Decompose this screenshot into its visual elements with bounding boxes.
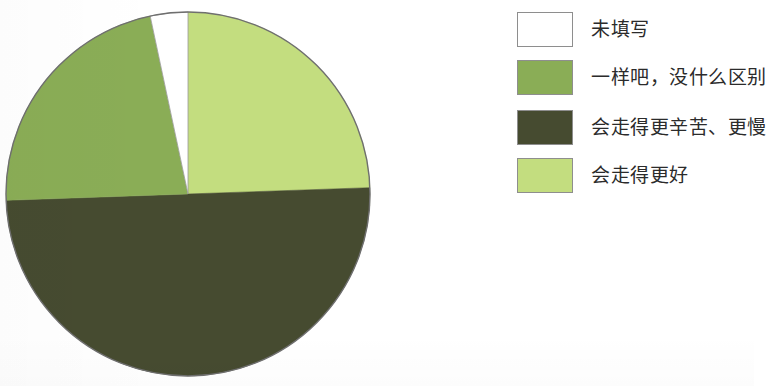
pie-slice[interactable] xyxy=(6,188,370,376)
chart-legend: 未填写 一样吧，没什么区别 会走得更辛苦、更慢 会走得更好 xyxy=(517,4,754,200)
legend-label-harder-slower: 会走得更辛苦、更慢 xyxy=(591,117,767,138)
legend-item-no-difference[interactable]: 一样吧，没什么区别 xyxy=(517,54,767,100)
pie-chart-graphic xyxy=(0,0,420,386)
legend-item-better[interactable]: 会走得更好 xyxy=(517,152,689,198)
legend-swatch-harder-slower xyxy=(517,110,573,145)
pie-slice-group xyxy=(6,12,370,376)
legend-item-harder-slower[interactable]: 会走得更辛苦、更慢 xyxy=(517,104,767,150)
legend-swatch-unfilled xyxy=(517,12,573,47)
pie-slice[interactable] xyxy=(188,12,370,194)
legend-swatch-no-difference xyxy=(517,60,573,95)
legend-label-better: 会走得更好 xyxy=(591,165,689,186)
legend-item-unfilled[interactable]: 未填写 xyxy=(517,6,650,52)
legend-swatch-better xyxy=(517,158,573,193)
pie-svg xyxy=(0,0,420,386)
legend-label-no-difference: 一样吧，没什么区别 xyxy=(591,67,767,88)
legend-label-unfilled: 未填写 xyxy=(591,19,650,40)
